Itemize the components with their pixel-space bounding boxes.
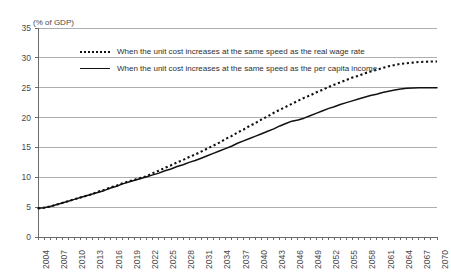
x-axis-tick-2028: 2028 [187,250,196,269]
x-axis-tick-2064: 2064 [405,250,414,269]
x-axis-tick-2043: 2043 [278,250,287,269]
chart-plot-area [0,0,451,277]
y-axis-tick-5: 5 [7,203,31,211]
x-axis-tick-2010: 2010 [78,250,87,269]
y-axis-tick-35: 35 [7,24,31,32]
x-axis-tick-2016: 2016 [115,250,124,269]
y-axis-tick-30: 30 [7,54,31,62]
x-axis-tick-2013: 2013 [96,250,105,269]
legend-label-per-capita-income: When the unit cost increases at the same… [117,64,377,73]
x-axis-tick-2049: 2049 [314,250,323,269]
x-axis-tick-2055: 2055 [350,250,359,269]
x-axis-tick-2061: 2061 [387,250,396,269]
legend-item-per-capita-income: When the unit cost increases at the same… [80,64,377,73]
x-axis-tick-2067: 2067 [423,250,432,269]
y-axis-tick-15: 15 [7,143,31,151]
x-axis-tick-2046: 2046 [296,250,305,269]
x-axis-tick-2034: 2034 [223,250,232,269]
x-axis-tick-2037: 2037 [242,250,251,269]
y-axis-tick-0: 0 [7,233,31,241]
x-axis-tick-2070: 2070 [441,250,450,269]
legend-swatch-dotted-icon [80,48,110,55]
x-axis-tick-2031: 2031 [205,250,214,269]
legend-swatch-solid-icon [80,65,110,72]
chart-container: (% of GDP) 35302520151050 20042007201020… [0,0,451,277]
x-axis-tick-2040: 2040 [260,250,269,269]
legend-item-real-wage-rate: When the unit cost increases at the same… [80,47,365,56]
y-axis-tick-25: 25 [7,84,31,92]
y-axis-tick-20: 20 [7,114,31,122]
y-axis-tick-10: 10 [7,173,31,181]
x-axis-tick-2058: 2058 [368,250,377,269]
x-axis-tick-2004: 2004 [42,250,51,269]
legend-label-real-wage-rate: When the unit cost increases at the same… [117,47,365,56]
x-axis-tick-2007: 2007 [60,250,69,269]
x-axis-tick-2019: 2019 [133,250,142,269]
x-axis-tick-2052: 2052 [332,250,341,269]
x-axis-tick-2025: 2025 [169,250,178,269]
x-axis-tick-2022: 2022 [151,250,160,269]
